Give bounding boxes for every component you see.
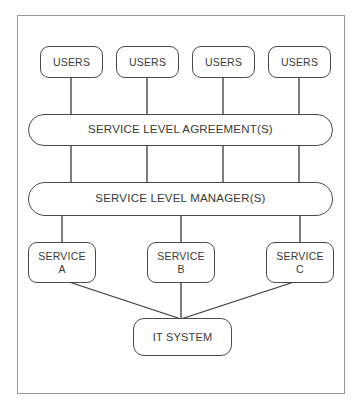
node-users-2[interactable]: USERS — [116, 46, 179, 78]
node-users-3[interactable]: USERS — [192, 46, 255, 78]
diagram-canvas: USERS USERS USERS USERS SERVICE LEVEL AG… — [0, 0, 361, 408]
node-users-4-label: USERS — [281, 56, 318, 68]
node-service-level-manager-label: SERVICE LEVEL MANAGER(S) — [95, 192, 265, 205]
node-service-c[interactable]: SERVICE C — [266, 242, 334, 283]
node-service-b-sublabel: B — [177, 263, 184, 275]
node-users-2-label: USERS — [129, 56, 166, 68]
node-service-level-agreement-label: SERVICE LEVEL AGREEMENT(S) — [88, 123, 273, 136]
node-users-1[interactable]: USERS — [40, 46, 103, 78]
node-service-a-label: SERVICE — [38, 250, 85, 262]
node-it-system[interactable]: IT SYSTEM — [133, 318, 232, 356]
node-service-b[interactable]: SERVICE B — [147, 242, 215, 283]
node-service-a[interactable]: SERVICE A — [28, 242, 96, 283]
node-it-system-label: IT SYSTEM — [153, 331, 213, 344]
node-service-c-label: SERVICE — [276, 250, 323, 262]
node-service-level-agreement[interactable]: SERVICE LEVEL AGREEMENT(S) — [28, 114, 333, 146]
node-users-4[interactable]: USERS — [268, 46, 331, 78]
node-service-c-sublabel: C — [296, 263, 304, 275]
node-service-level-manager[interactable]: SERVICE LEVEL MANAGER(S) — [28, 182, 333, 216]
node-service-b-label: SERVICE — [157, 250, 204, 262]
node-service-a-sublabel: A — [58, 263, 65, 275]
node-users-1-label: USERS — [53, 56, 90, 68]
node-users-3-label: USERS — [205, 56, 242, 68]
